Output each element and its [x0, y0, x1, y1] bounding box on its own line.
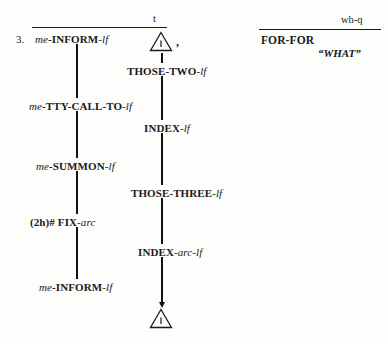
gloss-left-3: (2h)# FIX-arc — [29, 216, 96, 228]
wh-question-marker-rule — [259, 29, 381, 30]
left-association-line-seg-3 — [76, 227, 78, 279]
center-association-line-seg-2 — [161, 133, 163, 185]
gloss-center-3: INDEX-arc-lf — [137, 246, 203, 258]
transcription-page: t wh-q FOR-FOR “WHAT” 3. me-INFORM-lf me… — [0, 0, 388, 344]
gloss-center-3-suffix: arc-lf — [178, 246, 203, 258]
gloss-left-1: me-TTY-CALL-TO-lf — [28, 100, 133, 112]
center-association-line-seg-1 — [161, 76, 163, 120]
gloss-left-2-prefix: me — [36, 160, 49, 172]
left-association-line-seg-1 — [76, 111, 78, 158]
left-association-line-seg-2 — [76, 171, 78, 214]
gloss-center-3-root: INDEX — [138, 246, 174, 258]
center-association-line-seg-0 — [161, 53, 163, 63]
triangle-classifier-icon-bottom — [149, 308, 173, 329]
gloss-left-0-suffix: lf — [102, 33, 108, 45]
triangle-classifier-icon-top — [149, 31, 173, 52]
translation-what: “WHAT” — [318, 47, 361, 59]
gloss-center-2-root: THOSE-THREE — [131, 187, 212, 199]
left-association-line-seg-0 — [76, 44, 78, 98]
gloss-left-3-root: FIX — [58, 216, 77, 228]
gloss-left-4-root: INFORM — [56, 281, 102, 293]
gloss-left-4: me-INFORM-lf — [38, 281, 113, 293]
topic-marker-rule — [32, 27, 167, 28]
gloss-left-3-suffix: arc — [81, 216, 96, 228]
gloss-for-for-text: FOR-FOR — [261, 34, 314, 46]
gloss-left-0-prefix: me — [35, 33, 48, 45]
gloss-left-2-root: SUMMON — [53, 160, 105, 172]
wh-question-marker-tag: wh-q — [341, 14, 363, 25]
gloss-for-for: FOR-FOR — [260, 34, 315, 46]
gloss-left-1-prefix: me — [29, 100, 42, 112]
example-number: 3. — [16, 33, 24, 45]
gloss-center-1: INDEX-lf — [143, 122, 191, 134]
gloss-left-4-prefix: me — [39, 281, 52, 293]
gloss-left-1-root: TTY-CALL-TO — [46, 100, 122, 112]
center-association-line-seg-4 — [161, 257, 163, 305]
gloss-center-1-suffix: lf — [184, 122, 190, 134]
gloss-left-1-suffix: lf — [126, 100, 132, 112]
gloss-left-2-suffix: lf — [109, 160, 115, 172]
translation-what-text: “WHAT” — [318, 47, 361, 59]
gloss-center-2: THOSE-THREE-lf — [130, 187, 223, 199]
topic-marker-tag: t — [153, 13, 156, 24]
gloss-center-2-suffix: lf — [216, 187, 222, 199]
gloss-left-3-prefix: (2h)# — [30, 216, 55, 228]
gloss-center-0: THOSE-TWO-lf — [126, 65, 207, 77]
center-association-line-seg-3 — [161, 198, 163, 244]
gloss-center-0-suffix: lf — [200, 65, 206, 77]
gloss-left-0: me-INFORM-lf — [34, 33, 109, 45]
gloss-left-4-suffix: lf — [106, 281, 112, 293]
comma-punctuation: , — [176, 35, 179, 50]
